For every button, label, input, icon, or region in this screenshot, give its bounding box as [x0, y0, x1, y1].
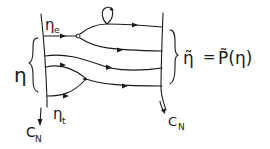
eta-t-subscript: t	[62, 116, 66, 126]
arrow-icon	[63, 94, 69, 99]
arrow-icon	[106, 65, 112, 71]
eta-e-subscript: e	[54, 25, 60, 35]
right-section-curve	[161, 13, 166, 110]
trajectory-upper-branch	[80, 24, 162, 34]
arrow-down-icon	[161, 109, 166, 115]
arrow-down-icon	[38, 119, 43, 126]
equals-sign: =	[203, 48, 216, 66]
cn-left-subscript: N	[35, 134, 42, 144]
trajectory-merge-lower	[47, 81, 84, 96]
right-brace	[170, 30, 178, 84]
eta-tilde: η̃	[183, 48, 194, 68]
eta-left-label: η	[14, 63, 27, 87]
cn-right-label: C	[168, 114, 177, 129]
p-tilde-of-eta: P̃(η)	[218, 48, 252, 68]
flow-diagram: η η e η t C N C N η̃ = P̃(η)	[0, 0, 270, 149]
trajectory-merge-upper	[46, 66, 84, 77]
trajectory-middle	[45, 55, 162, 70]
left-brace	[29, 38, 38, 92]
arrow-icon	[132, 23, 138, 28]
trajectory-lower-branch	[80, 38, 162, 51]
arrow-icon	[122, 84, 128, 89]
arrow-icon	[117, 48, 123, 53]
cn-right-subscript: N	[178, 122, 185, 132]
arrow-icon	[60, 34, 66, 39]
